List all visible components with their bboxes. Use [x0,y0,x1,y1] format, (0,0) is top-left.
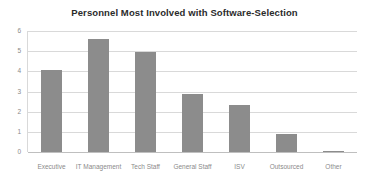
y-axis-tick-label: 4 [17,68,21,75]
y-axis-tick-label: 1 [17,129,21,136]
x-axis-label-slot: Executive [28,155,75,173]
x-axis-tick-label: Outsourced [270,163,304,170]
bar-slot [28,31,75,152]
bar-executive[interactable] [41,70,62,152]
x-axis-label-slot: Other [310,155,357,173]
chart-title: Personnel Most Involved with Software-Se… [0,7,369,18]
gridline-0 [28,152,357,153]
x-axis-label-slot: Tech Staff [122,155,169,173]
x-axis-tick-label: IT Management [76,163,121,170]
x-axis-tick-label: General Staff [173,163,211,170]
y-axis-tick-label: 6 [17,28,21,35]
y-axis: 6543210 [0,31,26,152]
y-axis-tick-label: 5 [17,48,21,55]
x-axis-tick-label: Tech Staff [131,163,160,170]
x-axis-label-slot: General Staff [169,155,216,173]
y-axis-tick-label: 3 [17,88,21,95]
bar-slot [169,31,216,152]
bar-slot [75,31,122,152]
bar-other[interactable] [323,151,344,152]
bar-slot [310,31,357,152]
y-axis-tick-label: 2 [17,108,21,115]
bar-tech-staff[interactable] [135,52,156,152]
bar-slot [122,31,169,152]
x-axis-tick-label: Other [325,163,341,170]
x-axis-tick-label: Executive [37,163,65,170]
bar-general-staff[interactable] [182,94,203,152]
bar-slot [216,31,263,152]
x-axis-label-slot: ISV [216,155,263,173]
x-axis-label-slot: IT Management [75,155,122,173]
x-axis-tick-label: ISV [234,163,244,170]
bar-chart: Personnel Most Involved with Software-Se… [0,0,369,178]
bar-isv[interactable] [229,105,250,152]
bar-slot [263,31,310,152]
x-axis-label-slot: Outsourced [263,155,310,173]
bar-outsourced[interactable] [276,134,297,152]
y-axis-tick-label: 0 [17,149,21,156]
x-axis: ExecutiveIT ManagementTech StaffGeneral … [28,155,357,173]
bars-group [28,31,357,152]
bar-it-management[interactable] [88,39,109,152]
